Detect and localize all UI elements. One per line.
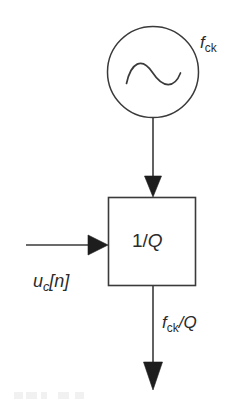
control-input-arrow: [26, 235, 108, 255]
figure-canvas: fck 1/Q uc[n] fck/Q: [0, 0, 239, 404]
fckq-subscript: ck: [167, 321, 179, 335]
clock-output-arrow: [144, 286, 163, 390]
divider-variable: Q: [148, 230, 163, 251]
divider-numerator: 1/: [132, 230, 148, 251]
divider-block-label: 1/Q: [132, 231, 163, 250]
oscillator-frequency-label: fck: [200, 34, 217, 54]
uc-base: u: [33, 271, 43, 291]
clock-input-arrowhead: [145, 176, 162, 197]
clock-output-label: fck/Q: [162, 314, 197, 334]
clock-input-arrow: [145, 118, 162, 197]
fckq-denominator: /Q: [179, 313, 197, 332]
control-input-arrowhead: [88, 235, 108, 255]
cropped-caption-remnant: [14, 392, 90, 399]
oscillator-source: [108, 27, 199, 118]
block-diagram-svg: [0, 0, 239, 404]
uc-index: [n]: [49, 271, 69, 291]
fck-subscript: ck: [205, 41, 217, 55]
control-input-label: uc[n]: [33, 272, 69, 293]
clock-output-arrowhead: [144, 362, 163, 390]
